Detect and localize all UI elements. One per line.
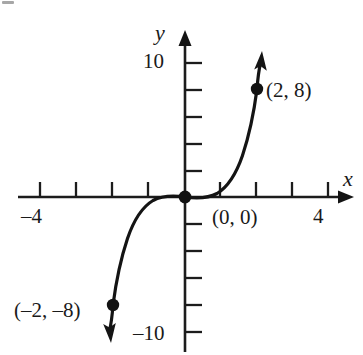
y-tick-label-neg10: –10 [133, 323, 165, 344]
point-0-0-marker [179, 191, 192, 204]
point-label-2-8: (2, 8) [266, 80, 312, 101]
x-tick-label-4: 4 [313, 206, 324, 227]
point-neg2-neg8-marker [107, 299, 119, 311]
point-2-8-marker [251, 83, 263, 95]
x-tick-label-neg4: –4 [21, 206, 42, 227]
y-axis-label: y [155, 22, 165, 44]
x-axis-label: x [343, 168, 353, 190]
graph-figure: y x 10 –10 –4 4 (2, 8) (0, 0) (–2, –8) [0, 0, 363, 355]
x-axis-arrowhead [338, 191, 354, 204]
point-label-0-0: (0, 0) [212, 207, 258, 228]
y-tick-label-10: 10 [143, 51, 164, 72]
point-label-neg2-neg8: (–2, –8) [14, 300, 81, 321]
y-axis-arrowhead [179, 30, 192, 46]
scan-artifact [2, 1, 14, 4]
y-axis [179, 30, 203, 352]
